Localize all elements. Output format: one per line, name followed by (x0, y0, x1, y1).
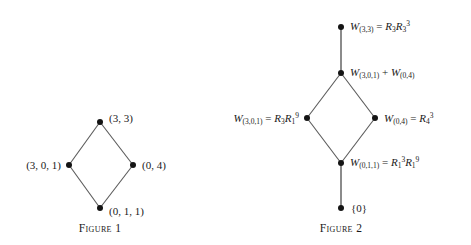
fig2-bottom-equals: = (379, 156, 391, 168)
fig2-label-zero: {0} (351, 203, 367, 214)
fig2-node-bottom (338, 160, 344, 166)
fig2-caption: Figure 2 (320, 222, 363, 234)
figures-canvas: (3, 3) (3, 0, 1) (0, 4) (0, 1, 1) Figure… (0, 0, 471, 245)
fig2-bottom-w-subscript: (0,1,1) (359, 161, 379, 170)
fig2-bottom-r1: R (391, 156, 398, 168)
fig2-edge-sum-right (341, 73, 375, 118)
fig1-edge-left-bottom (69, 165, 100, 208)
fig2-top-equals: = (374, 20, 386, 32)
fig2-top-r1: R (385, 20, 392, 32)
fig1-node-left (66, 162, 72, 168)
fig2-label-sum: W(3,0,1) + W(0,4) (350, 67, 414, 78)
fig1-node-top (97, 119, 103, 125)
fig1-node-bottom (97, 205, 103, 211)
fig2-bottom-w: W (350, 156, 359, 168)
fig2-label-bottom: W(0,1,1) = R13R19 (350, 157, 419, 168)
fig1-node-right (130, 162, 136, 168)
fig2-right-equals: = (408, 112, 420, 124)
fig1-caption: Figure 1 (79, 222, 122, 234)
fig2-label-right: W(0,4) = R43 (384, 113, 434, 124)
fig2-bottom-r2-superscript: 9 (416, 155, 420, 164)
fig2-right-r1-superscript: 3 (430, 111, 434, 120)
fig2-sum-w2: W (391, 66, 400, 78)
fig2-node-zero (338, 205, 344, 211)
fig1-label-top: (3, 3) (109, 113, 133, 124)
fig2-bottom-r2: R (405, 156, 412, 168)
fig2-node-right (372, 115, 378, 121)
fig2-top-r2-superscript: 3 (406, 19, 410, 28)
fig2-edge-left-bottom (307, 118, 341, 163)
fig2-label-left: W(3,0,1) = R3R19 (233, 113, 299, 124)
fig1-edge-top-right (100, 122, 133, 165)
fig2-left-equals: = (263, 112, 275, 124)
fig1-label-left: (3, 0, 1) (26, 160, 61, 171)
fig1-edge-top-left (69, 122, 100, 165)
fig1-edge-right-bottom (100, 165, 133, 208)
fig2-sum-w1-subscript: (3,0,1) (359, 71, 379, 80)
fig2-left-w-subscript: (3,0,1) (243, 117, 263, 126)
fig1-label-right: (0, 4) (142, 160, 166, 171)
fig2-top-w: W (350, 20, 359, 32)
fig2-sum-w2-subscript: (0,4) (400, 71, 414, 80)
fig2-left-w: W (233, 112, 242, 124)
fig2-right-w: W (384, 112, 393, 124)
fig2-node-sum (338, 70, 344, 76)
fig2-left-r2-superscript: 9 (295, 111, 299, 120)
fig2-label-top: W(3,3) = R3R33 (350, 21, 410, 32)
fig2-node-top (338, 24, 344, 30)
fig2-right-w-subscript: (0,4) (393, 117, 407, 126)
fig2-edge-sum-left (307, 73, 341, 118)
fig2-right-r1: R (419, 112, 426, 124)
fig2-sum-w1: W (350, 66, 359, 78)
fig2-sum-plus: + (379, 66, 391, 78)
fig1-label-bottom: (0, 1, 1) (109, 206, 144, 217)
fig2-node-left (304, 115, 310, 121)
fig2-top-w-subscript: (3,3) (359, 25, 373, 34)
fig2-left-r1: R (274, 112, 281, 124)
